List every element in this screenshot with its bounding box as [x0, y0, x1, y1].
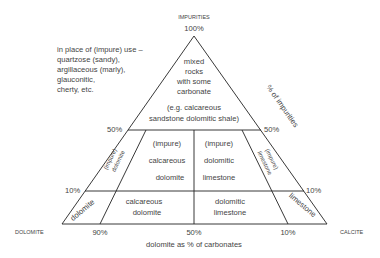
svg-text:dolomitic: dolomitic — [204, 156, 234, 165]
carbonate-classification-diagram: IMPURITIES 100% in place of (impure) use… — [0, 0, 380, 258]
svg-text:limestone: limestone — [214, 208, 247, 217]
vertex-dolomite: DOLOMITE — [15, 229, 44, 235]
region-calcareous-dolomite: calcareous dolomite — [126, 197, 163, 217]
svg-text:dolomite: dolomite — [133, 208, 162, 217]
tick-base-90: 90% — [92, 228, 107, 237]
region-example: (e.g. calcareous sandstone dolomitic sha… — [149, 103, 239, 123]
tick-left-10: 10% — [65, 186, 80, 195]
svg-text:quartzose (sandy),: quartzose (sandy), — [57, 55, 120, 64]
svg-text:sandstone dolomitic shale): sandstone dolomitic shale) — [149, 114, 239, 123]
region-impure-dolomitic-limestone: (impure) dolomitic limestone — [203, 139, 236, 182]
tick-base-10: 10% — [280, 228, 295, 237]
svg-text:cherty, etc.: cherty, etc. — [57, 85, 94, 94]
apex-pct: 100% — [184, 24, 204, 33]
svg-text:argillaceous (marly),: argillaceous (marly), — [57, 65, 125, 74]
svg-text:(e.g. calcareous: (e.g. calcareous — [167, 103, 221, 112]
svg-text:rocks: rocks — [185, 67, 203, 76]
tick-right-10: 10% — [306, 186, 321, 195]
svg-text:glauconitic,: glauconitic, — [57, 75, 95, 84]
svg-text:(impure): (impure) — [205, 139, 234, 148]
region-mixed-rocks: mixed rocks with some carbonate — [176, 57, 211, 96]
tick-left-50: 50% — [107, 125, 122, 134]
svg-text:in place of (impure) use –: in place of (impure) use – — [57, 45, 143, 54]
svg-text:(impure): (impure) — [153, 139, 182, 148]
svg-text:carbonate: carbonate — [177, 87, 211, 96]
svg-text:dolomite: dolomite — [156, 173, 185, 182]
note-text: in place of (impure) use – quartzose (sa… — [57, 45, 143, 94]
region-impure-dolomite: (impure) dolomite — [103, 148, 127, 173]
svg-text:mixed: mixed — [184, 57, 204, 66]
base-axis-label: dolomite as % of carbonates — [146, 240, 242, 249]
region-dolomite: dolomite — [69, 197, 97, 222]
vertex-calcite: CALCITE — [340, 229, 364, 235]
tick-base-50: 50% — [186, 228, 201, 237]
apex-label: IMPURITIES — [178, 14, 210, 20]
line-10pct-dolomite — [242, 130, 288, 224]
svg-text:limestone: limestone — [203, 173, 236, 182]
svg-text:calcareous: calcareous — [126, 197, 163, 206]
svg-text:dolomitic: dolomitic — [215, 197, 245, 206]
svg-text:calcareous: calcareous — [149, 156, 186, 165]
region-dolomitic-limestone: dolomitic limestone — [214, 197, 247, 217]
impurities-axis-label: % of impurities — [264, 83, 300, 129]
tick-right-50: 50% — [264, 125, 279, 134]
svg-text:with some: with some — [176, 77, 211, 86]
region-impure-calcareous-dolomite: (impure) calcareous dolomite — [149, 139, 186, 182]
